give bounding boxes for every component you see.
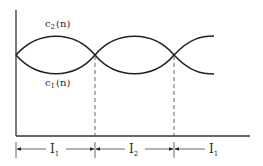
curve-c2 [16, 36, 214, 74]
label-c2: c2(n) [45, 18, 70, 31]
interval-2-label: I2 [129, 142, 138, 158]
interval-1-label: I1 [50, 142, 59, 158]
label-c1: c1(n) [45, 77, 70, 90]
interval-diagram: c2(n) c1(n) I1 I2 I1 [0, 0, 263, 166]
interval-3-label: I1 [209, 142, 218, 158]
curve-c1 [16, 36, 214, 74]
